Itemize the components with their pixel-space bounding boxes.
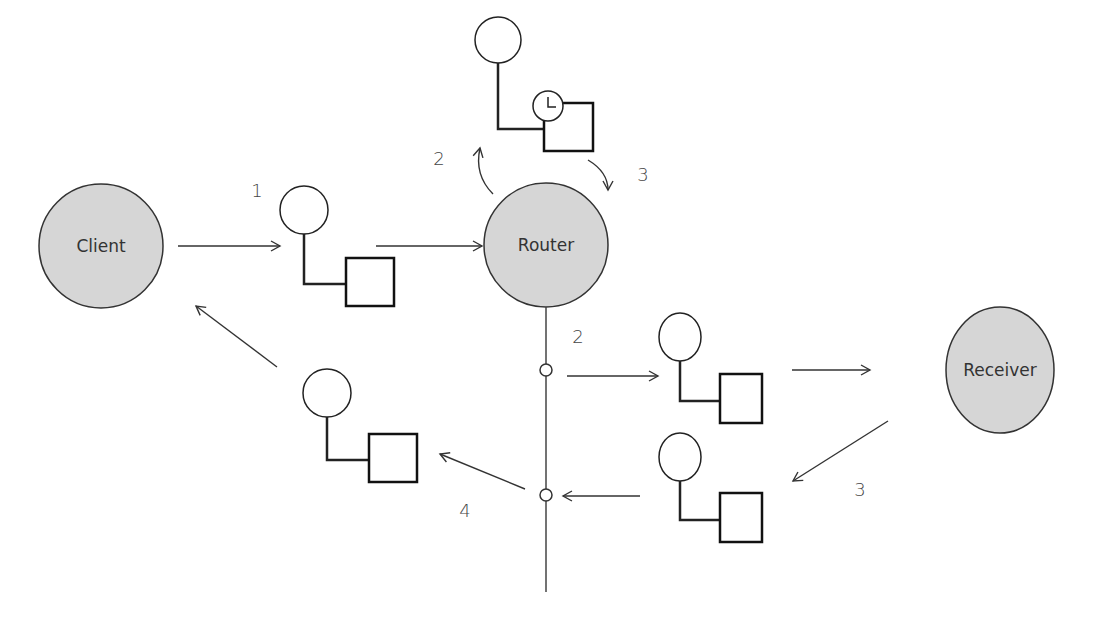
arrow-router-to-delay bbox=[479, 148, 493, 194]
arrow-delay-to-router bbox=[588, 160, 608, 190]
arrow-bus-to-packet-left bbox=[440, 454, 525, 489]
step-label-2-up: 2 bbox=[433, 148, 444, 169]
packet-icon bbox=[659, 313, 762, 423]
router-label: Router bbox=[518, 235, 574, 255]
step-label-4: 4 bbox=[459, 500, 470, 521]
bus-port-out bbox=[540, 364, 552, 376]
step-label-3-receiver: 3 bbox=[854, 479, 865, 500]
client-node: Client bbox=[39, 184, 163, 308]
packet-icon bbox=[303, 369, 417, 482]
receiver-node: Receiver bbox=[946, 307, 1054, 433]
network-diagram: Client Router Receiver bbox=[0, 0, 1102, 623]
client-label: Client bbox=[76, 236, 126, 256]
receiver-label: Receiver bbox=[963, 360, 1037, 380]
arrow-packet-to-client bbox=[196, 306, 277, 367]
step-label-2-bus: 2 bbox=[572, 326, 583, 347]
step-label-1: 1 bbox=[251, 180, 262, 201]
clock-icon bbox=[533, 91, 563, 121]
router-node: Router bbox=[484, 183, 608, 307]
packet-icon bbox=[659, 433, 762, 542]
arrow-receiver-to-packet bbox=[793, 421, 888, 481]
delayed-packet-icon bbox=[475, 17, 593, 151]
step-label-3-down: 3 bbox=[637, 164, 648, 185]
bus-port-in bbox=[540, 489, 552, 501]
